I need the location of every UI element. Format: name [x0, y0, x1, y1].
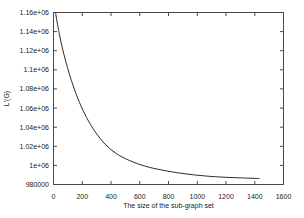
- y-tick-label: 1.08e+06: [20, 85, 49, 92]
- figure-page: 020040060080010001200140016009800001e+06…: [0, 0, 304, 218]
- y-tick-label: 1.14e+06: [20, 28, 49, 35]
- y-tick-label: 980000: [26, 181, 49, 188]
- plot-frame: [54, 13, 284, 185]
- y-axis-title: L'(G): [3, 91, 11, 106]
- x-tick-label: 600: [134, 193, 146, 200]
- y-tick-label: 1.12e+06: [20, 47, 49, 54]
- x-tick-label: 1400: [247, 193, 263, 200]
- x-axis-title: The size of the sub-graph set: [123, 202, 214, 210]
- y-tick-label: 1e+06: [29, 162, 49, 169]
- y-tick-label: 1.06e+06: [20, 105, 49, 112]
- series-curve: [56, 14, 259, 179]
- y-tick-label: 1.02e+06: [20, 143, 49, 150]
- plot-frame-layer: [54, 13, 284, 185]
- y-tick-label: 1.1e+06: [24, 66, 50, 73]
- x-tick-label: 400: [105, 193, 117, 200]
- x-tick-label: 800: [163, 193, 175, 200]
- x-tick-label: 1600: [276, 193, 292, 200]
- x-tick-label: 200: [76, 193, 88, 200]
- tick-marks-layer: [54, 13, 284, 185]
- y-tick-label: 1.16e+06: [20, 9, 49, 16]
- y-tick-label: 1.04e+06: [20, 124, 49, 131]
- data-curve-layer: [56, 14, 259, 179]
- x-tick-label: 0: [52, 193, 56, 200]
- line-chart: 020040060080010001200140016009800001e+06…: [0, 0, 304, 218]
- x-tick-label: 1200: [218, 193, 234, 200]
- x-tick-label: 1000: [190, 193, 206, 200]
